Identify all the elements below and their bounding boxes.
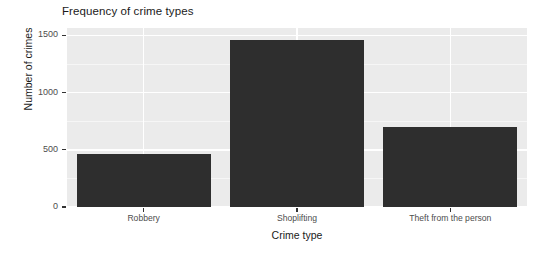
x-tick-label-theft-from-the-person: Theft from the person xyxy=(409,213,491,223)
x-tick-mark xyxy=(143,208,144,212)
x-tick-mark xyxy=(296,208,297,212)
chart-title: Frequency of crime types xyxy=(62,5,194,17)
x-tick-label-shoplifting: Shoplifting xyxy=(277,213,317,223)
y-tick-mark xyxy=(62,92,66,93)
y-tick-label: 500 xyxy=(10,144,58,154)
y-tick-mark xyxy=(62,206,66,207)
bar-theft-from-the-person[interactable] xyxy=(383,127,517,207)
y-tick-label: 0 xyxy=(10,201,58,211)
x-tick-mark xyxy=(450,208,451,212)
plot-panel xyxy=(67,28,527,207)
y-tick-mark xyxy=(62,35,66,36)
bar-robbery[interactable] xyxy=(77,154,211,207)
y-tick-label: 1500 xyxy=(10,29,58,39)
y-axis-tick-labels: 050010001500 xyxy=(0,0,58,254)
x-axis-title: Crime type xyxy=(67,229,527,241)
chart-figure: Frequency of crime types Number of crime… xyxy=(0,0,543,254)
y-tick-label: 1000 xyxy=(10,87,58,97)
x-tick-label-robbery: Robbery xyxy=(127,213,159,223)
y-tick-mark xyxy=(62,149,66,150)
bar-shoplifting[interactable] xyxy=(230,40,364,207)
